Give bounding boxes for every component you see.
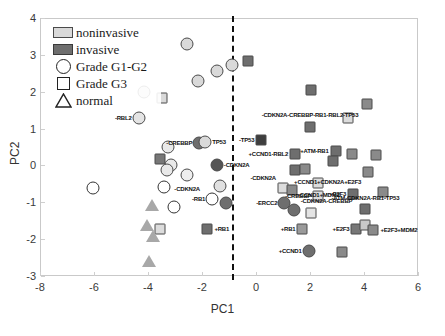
- data-point: [191, 74, 204, 87]
- legend-label-grade-g1-g2: Grade G1-G2: [76, 59, 147, 75]
- legend-label-noninvasive: noninvasive: [76, 25, 139, 41]
- data-point: [142, 255, 156, 267]
- data-point: [297, 223, 308, 234]
- point-annotation: +CCND1+CDKN2A+E2F3: [294, 179, 361, 185]
- data-point: [145, 199, 159, 211]
- data-point: [306, 84, 317, 95]
- y-tick-label: 4: [14, 12, 36, 24]
- point-annotation: +RB1: [281, 226, 296, 232]
- point-annotation: -RBL2: [115, 115, 132, 121]
- x-tick-label: 4: [361, 281, 367, 293]
- data-point: [337, 247, 348, 258]
- data-point: [363, 167, 374, 178]
- x-tick-label: 6: [415, 281, 421, 293]
- point-annotation: +E2F3: [333, 226, 350, 232]
- data-point: [306, 208, 317, 219]
- data-point: [199, 135, 212, 148]
- y-tick-label: 3: [14, 49, 36, 61]
- point-annotation: +ATM-RB1: [300, 148, 328, 154]
- data-point: [225, 59, 238, 72]
- data-point: [181, 37, 194, 50]
- legend-label-grade-g3: Grade G3: [76, 76, 127, 92]
- square-outline-icon: [50, 77, 76, 90]
- data-point: [86, 182, 99, 195]
- point-annotation: +CCND1: [279, 248, 302, 254]
- data-point: [256, 135, 267, 146]
- data-point: [302, 244, 315, 257]
- point-annotation: -CDKN2A: [224, 162, 250, 168]
- data-point: [371, 150, 382, 161]
- legend: noninvasive invasive Grade G1-G2 Grade G…: [47, 22, 161, 111]
- data-point: [287, 204, 300, 217]
- data-point: [361, 98, 372, 109]
- data-point: [132, 112, 145, 125]
- data-point: [213, 179, 226, 192]
- point-annotation: +CCND1-RBL2: [249, 151, 289, 157]
- point-annotation: -TP53: [239, 137, 254, 143]
- data-point: [146, 230, 160, 242]
- data-point: [220, 197, 233, 210]
- point-annotation: -ATM-CDKN2A-RB1-TP53: [331, 195, 399, 201]
- legend-label-normal: normal: [76, 93, 113, 109]
- x-tick-label: 2: [307, 281, 313, 293]
- data-point: [346, 148, 357, 159]
- point-annotation: -CREBBP: [166, 140, 192, 146]
- noninvasive-swatch-icon: [50, 27, 76, 38]
- point-annotation: +E2F3+MDM2: [380, 227, 417, 233]
- y-tick-label: 2: [14, 86, 36, 98]
- data-point: [360, 203, 371, 214]
- data-point: [305, 121, 316, 132]
- y-tick-label: 1: [14, 123, 36, 135]
- data-point: [160, 163, 173, 176]
- x-tick-label: -6: [89, 281, 99, 293]
- data-point: [290, 149, 301, 160]
- point-annotation: -CDKN2A: [250, 175, 276, 181]
- legend-item-invasive: invasive: [50, 41, 158, 58]
- y-tick-label: -3: [14, 270, 36, 282]
- legend-label-invasive: invasive: [76, 42, 119, 58]
- point-annotation: -CDKN2A: [174, 186, 200, 192]
- y-tick-label: 0: [14, 159, 36, 171]
- group-divider-line: [232, 16, 234, 280]
- legend-item-grade-g3: Grade G3: [50, 75, 158, 92]
- x-tick-label: 0: [253, 281, 259, 293]
- point-annotation: -ERCC2: [256, 200, 277, 206]
- data-point: [210, 158, 223, 171]
- x-axis-label: PC1: [0, 302, 445, 316]
- legend-item-noninvasive: noninvasive: [50, 24, 158, 41]
- point-annotation: -CDKN2A-CREBBP-RB1-RBL2-TP53: [262, 112, 359, 118]
- data-point: [167, 200, 180, 213]
- data-point: [158, 180, 171, 193]
- legend-item-grade-g1-g2: Grade G1-G2: [50, 58, 158, 75]
- point-annotation: +RB1: [214, 226, 229, 232]
- x-tick-label: -8: [35, 281, 45, 293]
- x-tick-label: -4: [143, 281, 153, 293]
- data-point: [327, 156, 338, 167]
- data-point: [210, 65, 223, 78]
- legend-item-normal: normal: [50, 92, 158, 109]
- y-tick-label: -2: [14, 233, 36, 245]
- data-point: [299, 164, 310, 175]
- triangle-outline-icon: [50, 93, 76, 108]
- x-tick-label: -2: [197, 281, 207, 293]
- data-point: [242, 56, 253, 67]
- data-point: [181, 168, 194, 181]
- data-point: [368, 224, 379, 235]
- point-annotation: -RB1: [192, 196, 205, 202]
- y-tick-label: -1: [14, 196, 36, 208]
- data-point: [202, 223, 213, 234]
- data-point: [206, 193, 219, 206]
- circle-outline-icon: [50, 59, 76, 74]
- pca-scatter-figure: PC1 PC2 -8-6-4-20246 -3-2-101234 -RBL2-C…: [0, 0, 445, 336]
- point-annotation: TP53: [212, 139, 226, 145]
- invasive-swatch-icon: [50, 44, 76, 55]
